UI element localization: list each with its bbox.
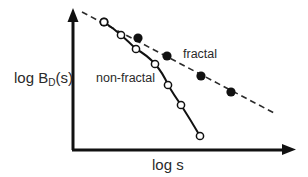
non-fractal-point [151, 60, 158, 67]
x-axis-arrowhead [282, 144, 296, 155]
non-fractal-point [196, 132, 203, 139]
non-fractal-point [132, 45, 139, 52]
x-axis [72, 144, 296, 155]
fractal-point [196, 71, 205, 80]
y-axis-arrowhead [68, 8, 79, 22]
non-fractal-point [117, 31, 124, 38]
fractal-label: fractal [183, 48, 217, 61]
fractal-point [226, 87, 235, 96]
fractal-point [162, 51, 171, 60]
plot-canvas [0, 0, 308, 177]
y-axis-label: log BD(s) [14, 70, 73, 85]
figure-root: log BD(s) log s fractal non-fractal [0, 0, 308, 177]
non-fractal-point [100, 18, 107, 25]
non-fractal-point [177, 101, 184, 108]
non-fractal-label: non-fractal [96, 72, 155, 85]
y-axis-label-suffix: (s) [55, 69, 73, 86]
fractal-point [133, 33, 142, 42]
x-axis-label: log s [152, 157, 184, 172]
non-fractal-point [164, 81, 171, 88]
y-axis-label-prefix: log B [14, 69, 48, 86]
y-axis-label-subscript: D [48, 77, 55, 88]
